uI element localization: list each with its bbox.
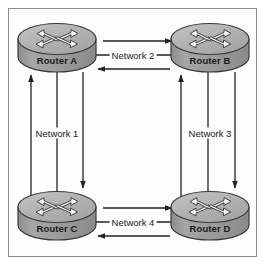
network-diagram: Router A Router B Router C Router D Netw… <box>0 0 267 267</box>
router-icon <box>171 24 249 73</box>
link-network-2 <box>96 41 172 69</box>
router-node-c[interactable] <box>18 192 96 241</box>
router-icon <box>18 24 96 73</box>
link-network-4 <box>96 208 172 236</box>
router-node-b[interactable] <box>171 24 249 73</box>
link-network-3 <box>181 72 235 203</box>
router-node-d[interactable] <box>171 192 249 241</box>
diagram-canvas <box>0 0 267 267</box>
router-node-a[interactable] <box>18 24 96 73</box>
router-icon <box>18 192 96 241</box>
router-icon <box>171 192 249 241</box>
link-network-1 <box>31 72 83 203</box>
